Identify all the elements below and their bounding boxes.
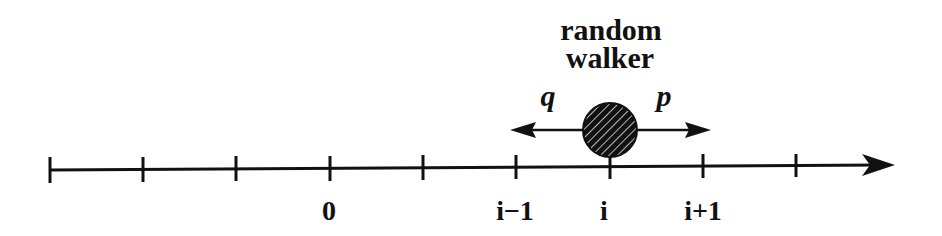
number-line xyxy=(50,154,895,176)
tick-label-0: 0 xyxy=(322,195,336,226)
prob-right-p: p xyxy=(654,79,672,112)
prob-left-q: q xyxy=(541,79,556,112)
tick-label-i-minus-1: i−1 xyxy=(496,195,534,226)
tick-label-i-plus-1: i+1 xyxy=(684,195,722,226)
tick-label-i: i xyxy=(600,195,608,226)
title-line-2: walker xyxy=(566,41,654,74)
random-walk-diagram: random walker q p 0 i−1 i i+1 xyxy=(0,0,942,236)
walker-circle-icon xyxy=(583,103,637,157)
